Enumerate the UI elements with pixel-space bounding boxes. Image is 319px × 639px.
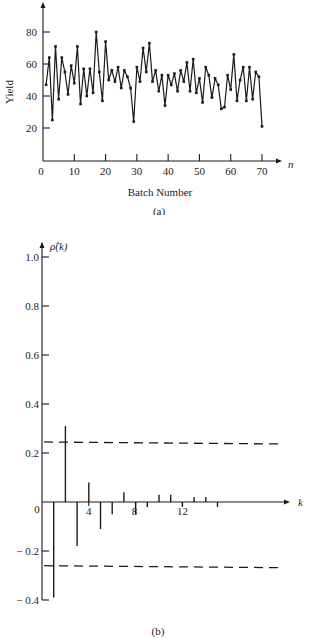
x-tick-label: 30 — [131, 165, 143, 177]
x-tick-label: 0 — [38, 165, 44, 177]
data-point — [142, 47, 145, 50]
data-point — [204, 66, 207, 69]
data-point — [132, 120, 135, 123]
data-point — [67, 93, 70, 96]
caption-a: (a) — [153, 205, 166, 215]
y-tick-label: − 0.4 — [16, 594, 39, 606]
data-point — [233, 53, 236, 56]
data-point — [101, 100, 104, 103]
autocorrelation-chart: − 0.4− 0.20.20.40.60.81.04812 ρ̂(k) k 0 … — [0, 215, 319, 639]
figure: 20406080010203040506070 Yield Batch Numb… — [0, 0, 319, 639]
data-point — [195, 92, 198, 95]
chart-a-ticks: 20406080010203040506070 — [26, 26, 268, 177]
data-point — [114, 80, 117, 83]
x-tick-label: 50 — [194, 165, 206, 177]
data-point — [220, 108, 223, 111]
x-axis-symbol-n: n — [288, 158, 294, 170]
data-point — [60, 56, 63, 59]
data-point — [198, 77, 201, 80]
data-point — [126, 76, 129, 79]
upper-confidence-band — [44, 442, 283, 444]
acf-stems — [54, 426, 218, 598]
data-point — [98, 71, 101, 74]
origin-label-zero: 0 — [34, 503, 40, 515]
data-point — [76, 45, 79, 48]
y-axis-arrow-icon — [41, 2, 46, 8]
data-point — [123, 69, 126, 72]
data-point — [95, 31, 98, 34]
y-tick-label: 0.8 — [25, 300, 39, 312]
data-point — [111, 69, 114, 72]
data-point — [167, 74, 170, 77]
data-point — [54, 45, 57, 48]
data-point — [189, 90, 192, 93]
x-tick-label: 40 — [163, 165, 175, 177]
x-tick-label: 70 — [257, 165, 269, 177]
y-axis-label-rho-hat-k: ρ̂(k) — [49, 240, 68, 253]
data-point — [45, 84, 48, 87]
x-axis-symbol-k: k — [298, 496, 304, 508]
data-point — [145, 71, 148, 74]
data-point — [64, 71, 67, 74]
confidence-bands — [44, 442, 284, 568]
data-point — [217, 84, 220, 87]
lower-confidence-band — [44, 566, 284, 568]
data-point — [211, 96, 214, 99]
data-point — [120, 87, 123, 90]
data-point — [182, 80, 185, 83]
data-point — [179, 69, 182, 72]
data-point — [201, 101, 204, 104]
y-tick-label: − 0.2 — [16, 545, 39, 557]
y-tick-label: 0.4 — [25, 398, 39, 410]
data-point — [170, 84, 173, 87]
data-point — [261, 125, 264, 128]
data-point — [151, 80, 154, 83]
y-tick-label: 40 — [26, 90, 38, 102]
data-point — [254, 71, 257, 74]
data-point — [208, 74, 211, 77]
chart-a-axes — [41, 2, 283, 164]
data-point — [157, 90, 160, 93]
x-axis-arrow-icon — [276, 159, 282, 164]
data-point — [107, 79, 110, 82]
data-point — [86, 95, 89, 98]
data-point — [92, 92, 95, 95]
data-point — [251, 98, 254, 101]
data-point — [239, 79, 242, 82]
data-point — [82, 68, 85, 71]
x-tick-label: 4 — [86, 505, 92, 517]
y-axis-label-yield: Yield — [3, 80, 15, 104]
data-point — [226, 74, 229, 77]
data-point — [164, 104, 167, 107]
data-point — [173, 72, 176, 75]
data-point — [154, 69, 157, 72]
x-axis-label-batch-number: Batch Number — [128, 186, 193, 198]
y-tick-label: 60 — [26, 58, 38, 70]
data-point — [245, 100, 248, 103]
x-axis-arrow-icon — [284, 500, 290, 505]
data-point — [51, 119, 54, 122]
y-tick-label: 80 — [26, 26, 38, 38]
data-point — [186, 61, 189, 64]
data-point — [161, 74, 164, 77]
data-point — [57, 98, 60, 101]
y-axis-arrow-icon — [40, 242, 45, 248]
data-point — [104, 40, 107, 43]
yield-series — [45, 31, 263, 128]
data-point — [258, 76, 261, 79]
data-point — [229, 88, 232, 91]
y-tick-label: 1.0 — [25, 251, 39, 263]
x-tick-label: 10 — [69, 165, 81, 177]
data-point — [129, 87, 132, 90]
x-tick-label: 20 — [100, 165, 112, 177]
data-point — [242, 66, 245, 69]
data-point — [214, 77, 217, 80]
data-point — [236, 100, 239, 103]
data-point — [148, 42, 151, 45]
data-point — [70, 64, 73, 67]
data-point — [176, 90, 179, 93]
y-tick-label: 0.6 — [25, 349, 39, 361]
y-tick-label: 20 — [26, 122, 38, 134]
data-point — [223, 106, 226, 109]
data-point — [136, 66, 139, 69]
